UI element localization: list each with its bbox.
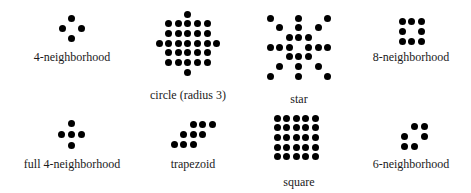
- dot: [204, 30, 211, 37]
- label-full-four-neighborhood: full 4-neighborhood: [24, 157, 120, 171]
- dot: [283, 115, 290, 122]
- dot: [274, 153, 281, 160]
- dot: [295, 15, 302, 22]
- dot: [78, 25, 85, 32]
- label-six-neighborhood: 6-neighborhood: [373, 157, 450, 171]
- dot: [165, 59, 172, 66]
- dot: [204, 20, 211, 27]
- dot: [312, 134, 319, 141]
- dot: [293, 153, 300, 160]
- dot: [175, 40, 182, 47]
- dot: [302, 115, 309, 122]
- dot: [175, 59, 182, 66]
- dot: [408, 38, 415, 45]
- dot: [175, 49, 182, 56]
- dot: [194, 59, 201, 66]
- dot: [295, 34, 302, 41]
- dot: [267, 73, 274, 80]
- dot: [274, 115, 281, 122]
- dot: [184, 30, 191, 37]
- dot: [324, 44, 331, 51]
- dot: [401, 133, 408, 140]
- dot: [165, 20, 172, 27]
- dot: [190, 121, 197, 128]
- dot: [267, 15, 274, 22]
- dot: [180, 141, 187, 148]
- dot: [408, 18, 415, 25]
- dot: [286, 44, 293, 51]
- dot: [305, 53, 312, 60]
- dot: [421, 133, 428, 140]
- label-eight-neighborhood: 8-neighborhood: [373, 50, 450, 64]
- dot: [165, 40, 172, 47]
- dot: [204, 49, 211, 56]
- dot: [274, 124, 281, 131]
- dot: [295, 63, 302, 70]
- dot: [209, 121, 216, 128]
- dot: [283, 124, 290, 131]
- dot: [399, 28, 406, 35]
- label-trapezoid: trapezoid: [171, 157, 216, 171]
- dot: [302, 134, 309, 141]
- dot: [302, 124, 309, 131]
- dot: [267, 44, 274, 51]
- dot: [274, 134, 281, 141]
- dot: [199, 131, 206, 138]
- dot: [190, 131, 197, 138]
- dot: [283, 153, 290, 160]
- dot: [418, 18, 425, 25]
- dot: [399, 18, 406, 25]
- dot: [295, 73, 302, 80]
- dot: [286, 34, 293, 41]
- dot: [199, 121, 206, 128]
- dot: [213, 40, 220, 47]
- dot: [156, 40, 163, 47]
- dot: [312, 144, 319, 151]
- dot: [184, 59, 191, 66]
- dot: [293, 134, 300, 141]
- dot: [293, 115, 300, 122]
- label-square: square: [283, 175, 314, 189]
- label-four-neighborhood: 4-neighborhood: [34, 50, 111, 64]
- dot: [399, 38, 406, 45]
- dot: [411, 143, 418, 150]
- dot: [204, 40, 211, 47]
- dot: [194, 30, 201, 37]
- dot: [68, 120, 75, 127]
- dot: [312, 153, 319, 160]
- dot: [295, 24, 302, 31]
- label-star: star: [290, 92, 307, 106]
- dot: [78, 131, 85, 138]
- dot: [274, 144, 281, 151]
- dot: [302, 144, 309, 151]
- dot: [293, 124, 300, 131]
- dot: [194, 49, 201, 56]
- dot: [312, 115, 319, 122]
- dot: [411, 123, 418, 130]
- dot: [68, 131, 75, 138]
- dot: [305, 44, 312, 51]
- dot: [194, 20, 201, 27]
- dot: [58, 131, 65, 138]
- dot: [421, 123, 428, 130]
- dot: [165, 49, 172, 56]
- dot: [190, 141, 197, 148]
- dot: [59, 25, 66, 32]
- dot: [315, 24, 322, 31]
- dot: [283, 134, 290, 141]
- dot: [68, 142, 75, 149]
- dot: [276, 44, 283, 51]
- dot: [305, 34, 312, 41]
- dot: [184, 20, 191, 27]
- dot: [283, 144, 290, 151]
- dot: [418, 38, 425, 45]
- label-circle-radius-3: circle (radius 3): [150, 88, 226, 102]
- dot: [401, 143, 408, 150]
- dot: [68, 35, 75, 42]
- dot: [418, 28, 425, 35]
- dot: [276, 63, 283, 70]
- dot: [276, 24, 283, 31]
- dot: [286, 53, 293, 60]
- dot: [165, 30, 172, 37]
- dot: [180, 131, 187, 138]
